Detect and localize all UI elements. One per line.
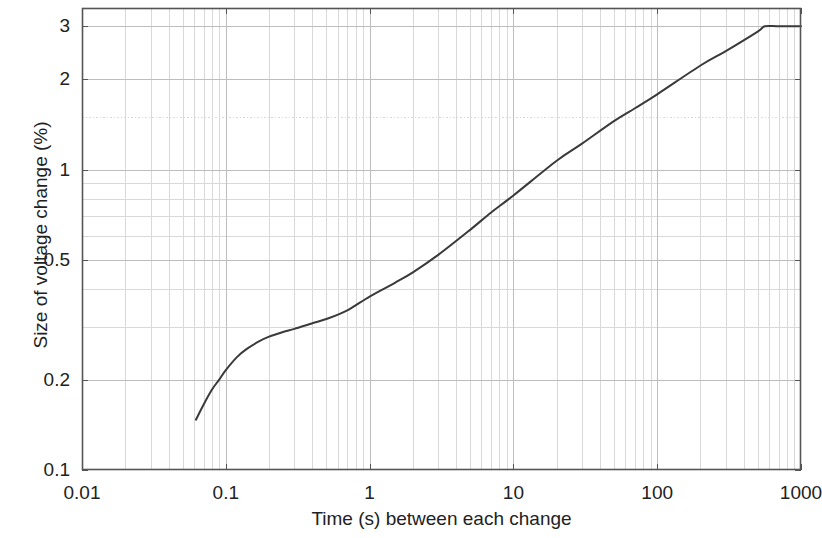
x-tick-label: 0.1	[213, 482, 239, 504]
y-tick-label: 2	[59, 68, 70, 90]
plot-frame-border	[83, 9, 801, 470]
x-tick-label: 0.01	[64, 482, 101, 504]
major-vertical-gridlines	[227, 8, 658, 470]
y-tick-label: 0.5	[44, 249, 70, 271]
x-tick-label: 1	[364, 482, 375, 504]
x-tick-label: 10	[503, 482, 524, 504]
x-axis-label-wrapper: Time (s) between each change	[82, 508, 801, 530]
y-axis-label: Size of voltage change (%)	[30, 121, 51, 348]
x-axis-label: Time (s) between each change	[311, 508, 571, 529]
x-tick-label: 100	[641, 482, 673, 504]
x-tick-label: 1000	[780, 482, 822, 504]
y-tick-label: 1	[59, 159, 70, 181]
y-tick-label: 0.1	[44, 459, 70, 481]
data-series-line	[196, 26, 801, 420]
y-axis-label-wrapper: Size of voltage change (%)	[30, 90, 52, 380]
minor-horizontal-gridlines	[82, 118, 801, 328]
y-tick-label: 3	[59, 15, 70, 37]
y-tick-label: 0.2	[44, 369, 70, 391]
axis-tick-marks	[82, 8, 802, 471]
